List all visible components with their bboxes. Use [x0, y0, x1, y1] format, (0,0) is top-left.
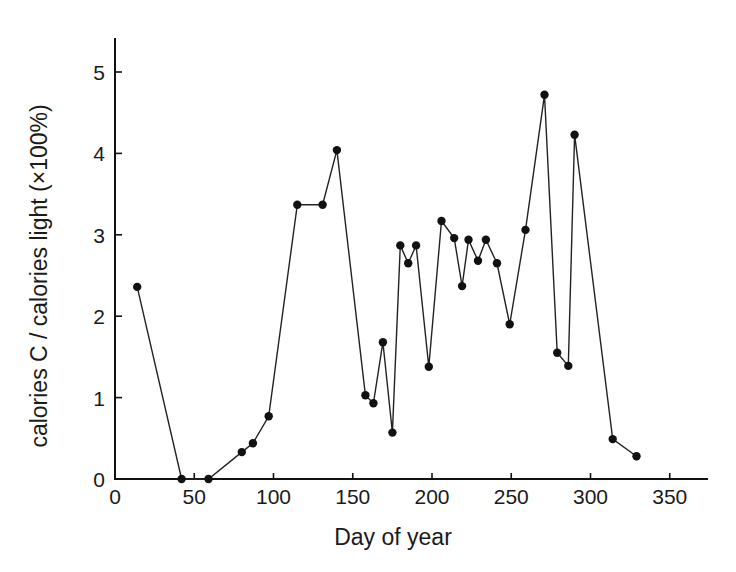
data-point-marker: [133, 283, 141, 291]
data-point-marker: [318, 201, 326, 209]
y-tick-label: 1: [93, 387, 105, 410]
data-point-marker: [265, 412, 273, 420]
axes: [114, 38, 708, 480]
data-point-marker: [540, 91, 548, 99]
data-point-marker: [632, 452, 640, 460]
y-tick-label: 2: [93, 305, 105, 328]
data-point-marker: [464, 236, 472, 244]
data-point-marker: [474, 257, 482, 265]
x-tick-label: 300: [573, 485, 608, 508]
data-point-marker: [293, 201, 301, 209]
data-point-marker: [412, 241, 420, 249]
data-point-marker: [564, 362, 572, 370]
data-point-marker: [493, 259, 501, 267]
x-tick-label: 150: [335, 485, 370, 508]
data-point-marker: [379, 338, 387, 346]
x-tick-label: 200: [414, 485, 449, 508]
data-point-marker: [369, 399, 377, 407]
data-point-marker: [425, 363, 433, 371]
x-tick-label: 0: [109, 485, 121, 508]
x-tick-label: 250: [494, 485, 529, 508]
line-chart: 050100150200250300350 012345 Day of year…: [0, 0, 736, 572]
data-point-marker: [437, 217, 445, 225]
y-tick-label: 5: [93, 61, 105, 84]
data-point-marker: [204, 475, 212, 483]
data-point-marker: [404, 259, 412, 267]
data-series: [133, 91, 641, 484]
data-point-marker: [609, 435, 617, 443]
data-point-marker: [482, 236, 490, 244]
data-point-marker: [521, 226, 529, 234]
y-axis-title: calories C / calories light (×100%): [26, 104, 52, 447]
y-tick-label: 0: [93, 468, 105, 491]
series-line: [137, 95, 636, 479]
x-tick-label: 350: [652, 485, 687, 508]
data-point-marker: [396, 241, 404, 249]
data-point-marker: [238, 448, 246, 456]
y-tick-label: 4: [93, 142, 105, 165]
x-axis-title: Day of year: [334, 524, 452, 550]
y-axis-ticks: 012345: [93, 61, 122, 491]
data-point-marker: [177, 475, 185, 483]
data-point-marker: [361, 391, 369, 399]
data-point-marker: [249, 439, 257, 447]
data-point-marker: [450, 234, 458, 242]
data-point-marker: [570, 131, 578, 139]
x-tick-label: 50: [183, 485, 206, 508]
chart-canvas: 050100150200250300350 012345 Day of year…: [0, 0, 736, 572]
x-tick-label: 100: [256, 485, 291, 508]
data-point-marker: [388, 428, 396, 436]
data-point-marker: [458, 282, 466, 290]
y-tick-label: 3: [93, 224, 105, 247]
data-point-marker: [333, 146, 341, 154]
data-point-marker: [553, 349, 561, 357]
data-point-marker: [506, 320, 514, 328]
